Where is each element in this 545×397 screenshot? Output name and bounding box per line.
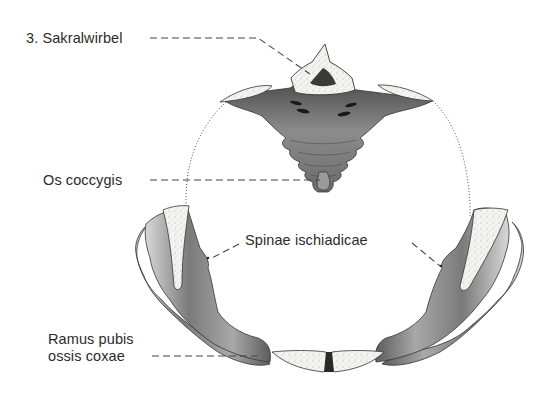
coccyx (317, 172, 330, 190)
label-spinae-ischiadicae: Spinae ischiadicae (245, 232, 368, 248)
pubic-symphysis (272, 351, 384, 373)
leader-spinae-right (412, 243, 440, 266)
leader-spinae-left (212, 244, 239, 258)
label-sacral-vertebra: 3. Sakralwirbel (26, 30, 123, 46)
sacral-vertebra (220, 44, 433, 192)
pelvis-diagram: 3. Sakralwirbel Os coccygis Spinae ischi… (0, 0, 545, 397)
label-os-coccygis: Os coccygis (43, 172, 122, 188)
label-ossis-coxae: ossis coxae (48, 348, 125, 364)
label-ramus-pubis: Ramus pubis (48, 331, 134, 347)
left-hip-bone (136, 206, 271, 366)
leader-sacral (150, 38, 310, 74)
right-hip-bone (375, 208, 523, 365)
